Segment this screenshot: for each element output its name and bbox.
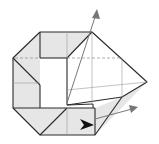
box-frame [13, 32, 147, 135]
origami-diagram [0, 0, 159, 144]
